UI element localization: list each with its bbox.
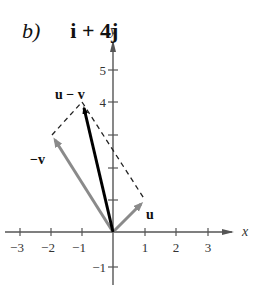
problem-header: b)i + 4j <box>0 0 118 70</box>
x-axis-label: x <box>241 224 249 239</box>
parallelogram-edge-top <box>52 102 82 135</box>
u-label: u <box>146 207 154 222</box>
x-tick-label: 1 <box>142 240 149 255</box>
u-minus-v-label: u − v <box>55 87 85 102</box>
vector-figure: b)i + 4j <box>0 0 256 292</box>
x-tick-label: 3 <box>205 240 212 255</box>
x-tick-label: −2 <box>41 240 55 255</box>
neg-v-label: −v <box>30 152 45 167</box>
y-tick-label: 4 <box>100 95 107 110</box>
result-expression: i + 4j <box>70 18 118 43</box>
u-vector <box>113 204 141 232</box>
x-tick-label: 2 <box>173 240 180 255</box>
neg-v-vector <box>55 140 113 232</box>
x-tick-label: −1 <box>72 240 86 255</box>
part-label: b) <box>22 18 40 43</box>
x-tick-labels: −3 −2 −1 1 2 3 <box>10 240 211 255</box>
x-tick-label: −3 <box>10 240 24 255</box>
y-tick-label: −1 <box>92 260 106 275</box>
